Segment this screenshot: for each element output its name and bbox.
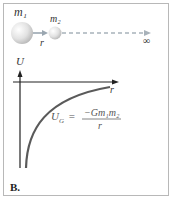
diagram-graphics (0, 0, 174, 198)
y-axis (18, 70, 23, 168)
mass1-label: m₁ (14, 6, 27, 18)
formula-lhs: U (51, 110, 59, 122)
y-axis-label: U (16, 56, 24, 67)
separation-arrow (33, 30, 48, 36)
formula-denominator: r (98, 121, 102, 131)
x-axis-label: r (110, 85, 114, 95)
formula-equals: = (69, 110, 75, 122)
dashed-arrow-to-infinity (62, 30, 151, 36)
formula-numerator: −Gm₁m₂ (84, 108, 119, 118)
separation-label: r (40, 38, 44, 48)
infinity-label: ∞ (143, 36, 150, 46)
panel-label: B. (10, 181, 20, 193)
mass2-sphere (49, 27, 62, 40)
formula: UG = (51, 110, 75, 125)
mass2-label: m₂ (50, 14, 61, 24)
mass1-sphere (11, 22, 33, 44)
x-axis (13, 80, 119, 85)
formula-lhs-subscript: G (59, 117, 64, 125)
